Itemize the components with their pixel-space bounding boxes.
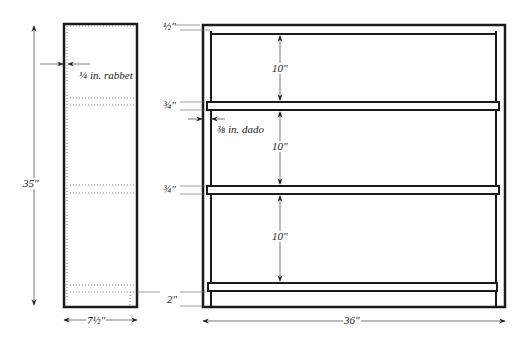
shelf-thickness-label-1: ¾" [162,100,177,111]
rabbet-label: ¼ in. rabbet [78,70,134,81]
shelf-spacing-label-2: 10" [271,141,289,152]
dado-label: ⅜ in. dado [216,124,265,135]
shelf-spacing-label-1: 10" [271,63,289,74]
shelf-thickness-label-2: ¾" [162,184,177,195]
shelf-spacing-label-3: 10" [271,231,289,242]
depth-dimension-label: 7½" [86,315,106,326]
top-thickness-label: ½" [162,21,177,32]
height-dimension-label: 35" [22,178,40,189]
front-view [137,25,505,321]
bookshelf-drawing [0,0,528,339]
width-dimension-label: 36" [343,315,361,326]
bottom-rail-label: 2" [166,294,178,305]
